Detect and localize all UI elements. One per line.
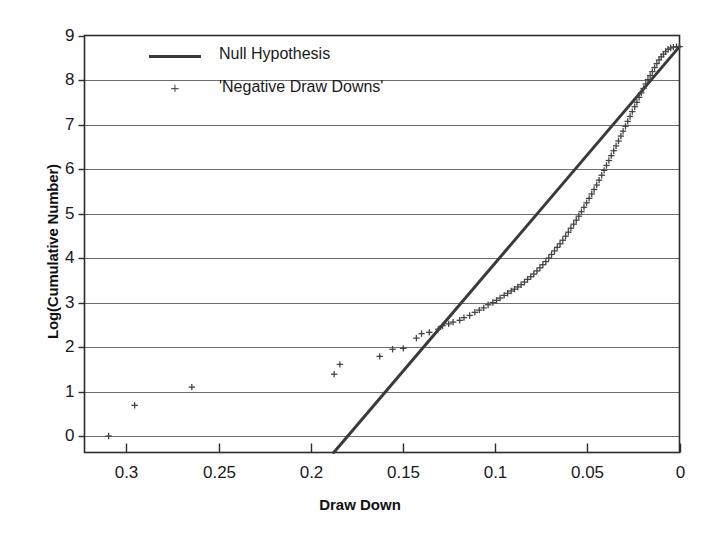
- data-point-marker: [418, 330, 424, 336]
- x-tick-label-0.2: 0.2: [272, 463, 352, 483]
- data-point-marker: [426, 329, 432, 335]
- x-tick-label-0.05: 0.05: [548, 463, 628, 483]
- legend-plus-marker-icon: +: [165, 78, 185, 98]
- null-hypothesis-polyline: [334, 47, 680, 453]
- data-point-marker: [189, 384, 195, 390]
- x-axis-title: Draw Down: [0, 496, 720, 513]
- data-point-marker: [337, 361, 343, 367]
- data-point-marker: [331, 371, 337, 377]
- x-tick-label-0.15: 0.15: [364, 463, 444, 483]
- x-tick-label-0: 0: [641, 463, 720, 483]
- data-point-marker: [400, 345, 406, 351]
- data-point-marker: [466, 312, 472, 318]
- data-point-marker: [131, 402, 137, 408]
- y-tick-label-0: 0: [35, 426, 75, 446]
- y-tick-label-8: 8: [35, 70, 75, 90]
- x-tick-marks-group: [127, 444, 681, 453]
- data-point-marker: [537, 265, 543, 271]
- data-point-marker: [413, 335, 419, 341]
- chart-figure: 0123456789 0.30.250.20.150.10.050 Log(Cu…: [0, 0, 720, 533]
- y-axis-title: Log(Cumulative Number): [44, 122, 61, 382]
- y-tick-marks-group: [79, 37, 85, 437]
- x-tick-label-0.3: 0.3: [87, 463, 167, 483]
- plot-frame-border: [85, 36, 680, 453]
- legend-line-swatch: [149, 55, 201, 58]
- data-point-marker: [534, 268, 540, 274]
- data-point-marker: [105, 433, 111, 439]
- y-tick-label-9: 9: [35, 26, 75, 46]
- gridlines-group: [85, 81, 680, 437]
- y-tick-label-1: 1: [35, 382, 75, 402]
- x-tick-label-0.1: 0.1: [456, 463, 536, 483]
- legend-label-negative-draw-downs: 'Negative Draw Downs': [219, 78, 383, 96]
- data-point-marker: [543, 258, 549, 264]
- null-hypothesis-line: [334, 47, 680, 453]
- data-point-marker: [376, 353, 382, 359]
- legend-label-null-hypothesis: Null Hypothesis: [219, 45, 330, 63]
- data-point-marker: [540, 261, 546, 267]
- x-tick-label-0.25: 0.25: [180, 463, 260, 483]
